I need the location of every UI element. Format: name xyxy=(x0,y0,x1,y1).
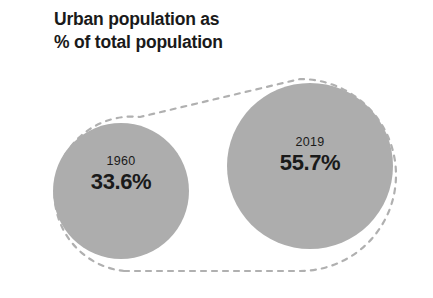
bubble-label-1960: 1960 33.6% xyxy=(61,155,181,193)
bubble-year-2019: 2019 xyxy=(250,136,370,149)
bubble-value-1960: 33.6% xyxy=(61,171,181,193)
bubble-value-2019: 55.7% xyxy=(250,152,370,174)
urban-population-bubble-chart: Urban population as % of total populatio… xyxy=(0,0,433,298)
bubble-year-1960: 1960 xyxy=(61,155,181,168)
bubble-label-2019: 2019 55.7% xyxy=(250,136,370,174)
